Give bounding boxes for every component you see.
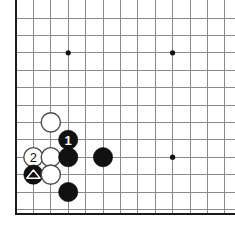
black-stone-icon [59, 148, 78, 167]
black-stone-c [93, 148, 112, 167]
black-stone-icon [24, 165, 43, 184]
stone-move-number: 1 [65, 133, 72, 148]
white-stone-icon [41, 113, 60, 132]
black-stone-triangle [24, 165, 43, 184]
white-stone-b [41, 148, 60, 167]
go-board-canvas: 12 [0, 0, 235, 237]
white-stone-move-2: 2 [24, 148, 43, 167]
black-stone-b [59, 148, 78, 167]
white-stone-a [41, 113, 60, 132]
star-point-upper-right [170, 50, 175, 55]
star-point-lower-right [170, 155, 175, 160]
white-stone-icon [41, 165, 60, 184]
white-stone-icon [41, 148, 60, 167]
star-point-upper-left [66, 50, 71, 55]
black-stone-d [59, 182, 78, 201]
black-stone-icon [59, 182, 78, 201]
white-stone-c [41, 165, 60, 184]
go-board-diagram: 12 [0, 0, 235, 237]
black-stone-move-1: 1 [59, 130, 78, 149]
black-stone-icon [93, 148, 112, 167]
stone-move-number: 2 [30, 150, 37, 165]
